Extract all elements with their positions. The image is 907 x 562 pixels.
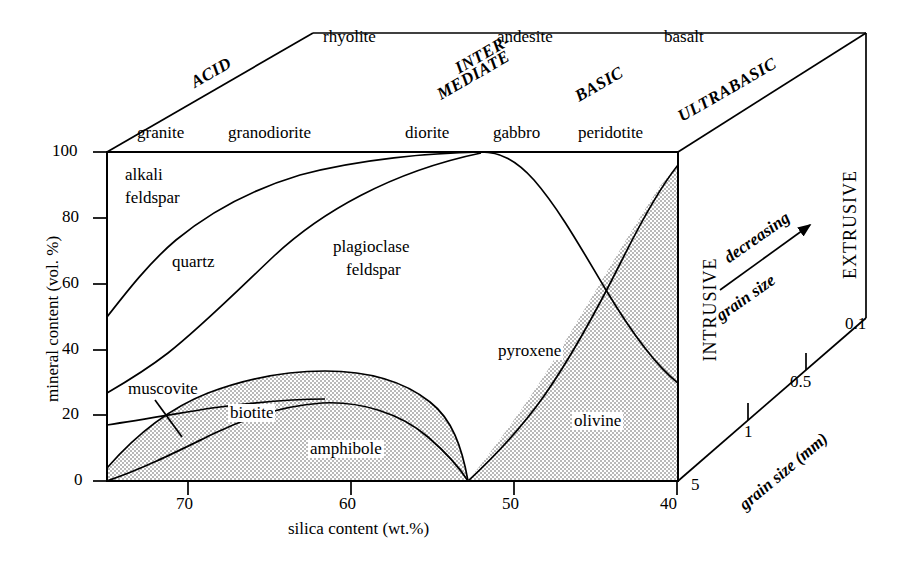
rock-label-gabbro: gabbro [493,124,540,142]
y-tick-label-20: 20 [62,405,79,423]
field-label-olivine: olivine [572,412,623,430]
grain-tick-label-0-5: 0.5 [790,373,811,391]
figure-root: rhyolite andesite basalt granite granodi… [0,0,907,562]
x-axis-title: silica content (wt.%) [288,520,429,538]
x-tick-label-60: 60 [339,495,356,513]
field-label-alkali-feldspar-line1: alkali [125,166,163,184]
y-tick-label-40: 40 [62,340,79,358]
field-label-pyroxene: pyroxene [496,342,563,360]
shaded-mafic-fields [107,165,678,481]
rock-label-granodiorite: granodiorite [228,124,311,142]
grain-tick-label-5: 5 [691,476,700,494]
rock-label-rhyolite: rhyolite [323,28,376,46]
y-axis-ticks [93,152,107,481]
rock-label-basalt: basalt [664,28,704,46]
field-label-quartz: quartz [172,253,214,271]
y-tick-label-0: 0 [74,471,83,489]
block-label-extrusive: EXTRUSIVE [841,134,860,314]
field-label-amphibole: amphibole [308,440,384,458]
y-axis-title: mineral content (vol. %) [44,204,62,434]
field-label-biotite: biotite [228,404,275,422]
field-label-alkali-feldspar-line2: feldspar [125,189,180,207]
y-tick-label-80: 80 [62,208,79,226]
grain-tick-label-0-1: 0.1 [845,315,866,333]
x-tick-label-40: 40 [660,495,677,513]
x-tick-label-50: 50 [502,495,519,513]
rock-label-granite: granite [137,124,184,142]
rock-label-peridotite: peridotite [578,124,643,142]
x-tick-label-70: 70 [176,495,193,513]
curve-alkali-quartz [107,152,481,317]
y-tick-label-100: 100 [52,142,78,160]
field-label-plagioclase-line1: plagioclase [333,238,409,256]
field-label-muscovite: muscovite [128,380,198,398]
grain-tick-label-1: 1 [744,423,753,441]
x-axis-ticks [188,481,677,495]
y-tick-label-60: 60 [62,274,79,292]
field-label-plagioclase-line2: feldspar [346,261,401,279]
rock-label-diorite: diorite [405,124,449,142]
